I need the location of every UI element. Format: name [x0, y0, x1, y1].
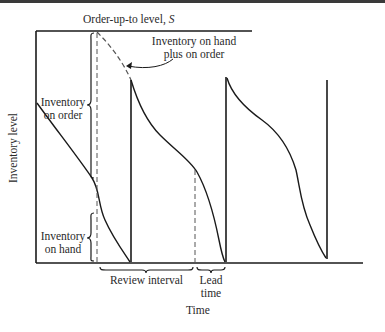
lead-time-line-2: time: [194, 287, 228, 300]
brace-inventory-on-order: [87, 33, 94, 178]
y-axis-label-text: Inventory level: [7, 113, 19, 183]
lead-time-label: Lead time: [194, 274, 228, 300]
label-on-order-line-2: on order: [38, 109, 88, 122]
order-up-to-level-label: Order-up-to level, S: [83, 13, 174, 26]
inventory-curve-cycle-2: [131, 80, 225, 262]
label-on-hand-line-2: on hand: [38, 243, 88, 256]
lead-time-line-1: Lead: [194, 274, 228, 287]
label-on-hand-line-1: Inventory: [38, 230, 88, 243]
inventory-curve-cycle-3: [227, 78, 326, 258]
label-inventory-on-hand: Inventory on hand: [38, 230, 88, 256]
x-axis-label: Time: [186, 304, 210, 317]
inventory-position-dashed-curve: [97, 32, 131, 80]
review-interval-label: Review interval: [100, 274, 193, 287]
brace-review-interval: [100, 267, 193, 273]
callout-line-1: Inventory on hand: [132, 35, 256, 48]
order-up-to-symbol: S: [169, 13, 175, 25]
brace-lead-time: [197, 267, 225, 273]
label-on-order-line-1: Inventory: [38, 96, 88, 109]
callout-inventory-on-hand-plus-on-order: Inventory on hand plus on order: [132, 35, 256, 61]
callout-arrowhead-icon: [126, 62, 132, 69]
label-inventory-on-order: Inventory on order: [38, 96, 88, 122]
brace-inventory-on-hand: [87, 213, 94, 261]
callout-line-2: plus on order: [132, 48, 256, 61]
